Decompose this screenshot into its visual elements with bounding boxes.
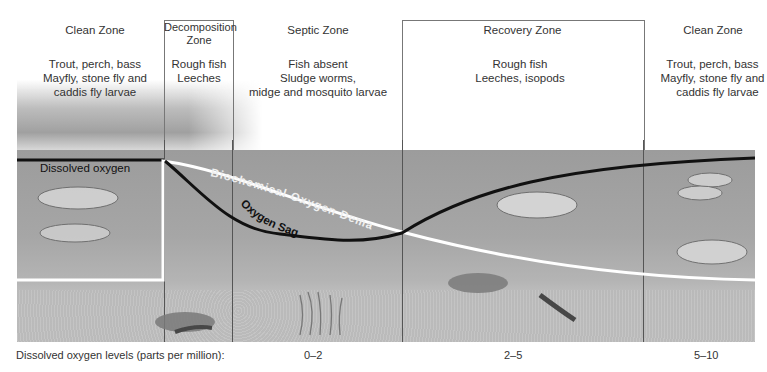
do-level-septic: 0–2 — [304, 349, 322, 361]
fish-icons — [38, 173, 747, 332]
do-levels-label: Dissolved oxygen levels (parts per milli… — [16, 349, 224, 361]
do-level-recovery: 2–5 — [504, 349, 522, 361]
oxygen-curves: Dissolved oxygen Biochemical Oxygen Dema… — [0, 0, 767, 372]
dissolved-oxygen-label: Dissolved oxygen — [40, 162, 130, 174]
sludge-worms-icon — [300, 292, 342, 335]
do-level-clean: 5–10 — [694, 349, 718, 361]
